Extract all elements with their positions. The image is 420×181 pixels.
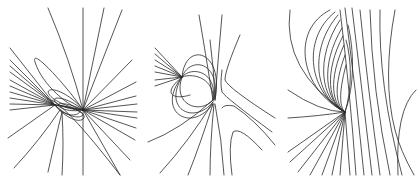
figure-canvas	[0, 0, 420, 181]
panel-3	[288, 8, 416, 175]
panel-1	[8, 8, 137, 175]
field-line-figure	[0, 0, 420, 181]
panel-2	[148, 15, 275, 175]
